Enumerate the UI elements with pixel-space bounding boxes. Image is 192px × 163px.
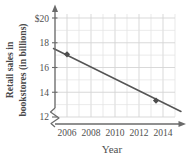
x-axis-title: Year <box>102 143 123 155</box>
y-tick-label: $20 <box>35 14 50 24</box>
y-tick-label: 16 <box>40 63 50 73</box>
y-tick-label: 12 <box>40 112 50 122</box>
y-axis-title-line2: bookstores (in billions) <box>17 23 29 116</box>
chart-container: $20 18 16 14 12 2006 2008 2010 2012 2014… <box>0 0 192 163</box>
y-tick-label: 18 <box>40 38 50 48</box>
y-tick-label: 14 <box>40 88 50 98</box>
y-axis-title-line1: Retail sales in <box>4 41 15 98</box>
x-tick-label: 2008 <box>82 128 101 138</box>
x-tick-label: 2010 <box>106 128 125 138</box>
x-tick-label: 2014 <box>154 128 173 138</box>
line-chart: $20 18 16 14 12 2006 2008 2010 2012 2014… <box>0 0 192 163</box>
x-axis-tick-labels: 2006 2008 2010 2012 2014 <box>58 128 173 138</box>
x-tick-label: 2006 <box>58 128 77 138</box>
x-tick-label: 2012 <box>130 128 149 138</box>
